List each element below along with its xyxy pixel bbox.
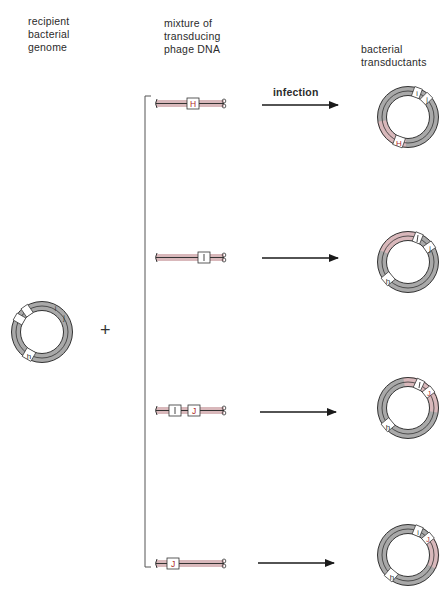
recipient-genome-circle: i j h bbox=[12, 302, 73, 363]
phage-dna-H: H bbox=[156, 98, 226, 109]
svg-text:h: h bbox=[386, 423, 390, 432]
marker-h: h bbox=[27, 352, 31, 361]
svg-text:h: h bbox=[390, 573, 394, 582]
transductant-J: i J h bbox=[378, 525, 439, 586]
mixture-bracket bbox=[145, 96, 151, 567]
svg-text:J: J bbox=[171, 559, 175, 569]
phage-dna-J: J bbox=[156, 558, 226, 569]
svg-text:J: J bbox=[427, 390, 431, 397]
transductant-H: i j H bbox=[378, 87, 439, 149]
svg-text:J: J bbox=[192, 406, 196, 416]
diagram-canvas: i j h H J bbox=[0, 0, 446, 604]
svg-text:j: j bbox=[425, 96, 428, 104]
transductant-I: j h bbox=[378, 232, 439, 293]
phage-dna-IJ: J bbox=[156, 405, 226, 416]
svg-text:H: H bbox=[396, 139, 402, 148]
svg-text:h: h bbox=[386, 277, 390, 286]
marker-j: j bbox=[62, 314, 65, 322]
phage-dna-I bbox=[156, 252, 226, 263]
svg-text:j: j bbox=[428, 245, 431, 253]
transductant-IJ: J h bbox=[378, 378, 439, 439]
svg-text:J: J bbox=[426, 536, 430, 543]
svg-text:H: H bbox=[190, 99, 196, 109]
